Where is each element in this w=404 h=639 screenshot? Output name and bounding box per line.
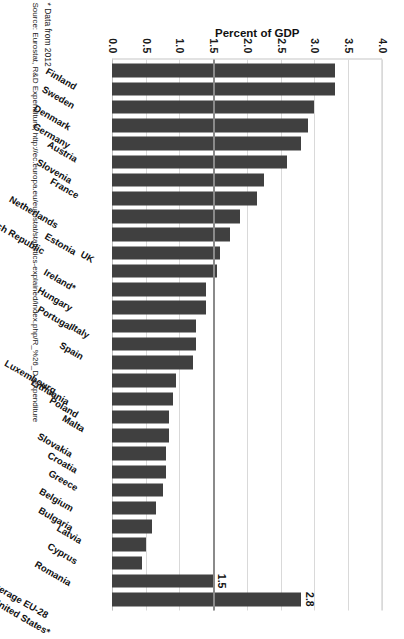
bar[interactable] <box>112 355 193 368</box>
category-label-slot: Estonia <box>2 224 110 242</box>
bar[interactable] <box>112 537 146 550</box>
bar-slot <box>112 298 382 316</box>
bar-slot <box>112 243 382 261</box>
bar[interactable] <box>112 465 166 478</box>
category-label-slot: Finland <box>2 60 110 78</box>
category-label-slot: Slovenia <box>2 151 110 169</box>
bar[interactable] <box>112 373 176 386</box>
category-label-slot: Portugal <box>2 297 110 315</box>
bar-slot <box>112 389 382 407</box>
bar-slot <box>112 152 382 170</box>
value-axis-tick-label: 2.5 <box>276 38 288 53</box>
rotated-figure-stage: Percent of GDP 4.03.53.02.52.01.51.00.50… <box>0 0 404 639</box>
bar-slot <box>112 316 382 334</box>
category-label-slot: Luxembourg <box>2 352 110 370</box>
bar[interactable] <box>112 300 207 313</box>
bar-slot <box>112 444 382 462</box>
bar-slot <box>112 134 382 152</box>
category-label-slot: Greece <box>2 462 110 480</box>
bar[interactable] <box>112 136 301 149</box>
footnote-data-year: * Data from 2012 <box>41 2 54 638</box>
bar-value-label: 1.5 <box>216 573 228 588</box>
category-labels-group: FinlandSwedenDenmarkGermanyAustriaSloven… <box>2 58 110 610</box>
bar[interactable] <box>112 446 166 459</box>
category-label-slot: UK <box>2 243 110 261</box>
bar-slot <box>112 189 382 207</box>
bar[interactable] <box>112 155 288 168</box>
bar-slot <box>112 170 382 188</box>
value-axis-tick-label: 3.0 <box>310 38 322 53</box>
bar[interactable] <box>112 428 169 441</box>
bar-slot <box>112 262 382 280</box>
value-axis-tick-label: 2.0 <box>242 38 254 53</box>
bar-slot <box>112 480 382 498</box>
bar[interactable] <box>112 392 173 405</box>
category-label-slot: Czech Republic <box>2 206 110 224</box>
bar[interactable] <box>112 319 196 332</box>
bar[interactable] <box>112 209 240 222</box>
category-label-slot: Bulgaria <box>2 498 110 516</box>
bar-slot <box>112 426 382 444</box>
value-axis-tick-label: 0.0 <box>107 38 119 53</box>
bar[interactable] <box>112 264 217 277</box>
value-axis-tick-label: 3.5 <box>343 38 355 53</box>
bar[interactable] <box>112 173 264 186</box>
bar-slot <box>112 116 382 134</box>
bar-slot <box>112 535 382 553</box>
eu28-reference-line <box>213 59 215 610</box>
bar[interactable] <box>112 282 207 295</box>
bar-slot <box>112 280 382 298</box>
category-label-slot: France <box>2 170 110 188</box>
bars-group: 1.52.8 <box>112 59 382 610</box>
category-label-slot: Cyprus <box>2 535 110 553</box>
category-label-slot: Italy <box>2 316 110 334</box>
value-axis-title: Percent of GDP <box>215 26 299 38</box>
category-label-slot: Lithuania <box>2 371 110 389</box>
bar[interactable] <box>112 592 301 605</box>
value-axis-tick-label: 1.5 <box>208 38 220 53</box>
bar-slot <box>112 207 382 225</box>
bar[interactable] <box>112 63 335 76</box>
bar-slot <box>112 97 382 115</box>
bar-slot <box>112 553 382 571</box>
bar-slot <box>112 371 382 389</box>
bar[interactable] <box>112 410 169 423</box>
bar[interactable] <box>112 118 308 131</box>
bar[interactable] <box>112 82 335 95</box>
value-axis-tick-label: 4.0 <box>377 38 389 53</box>
bar-slot <box>112 225 382 243</box>
bar[interactable] <box>112 337 196 350</box>
category-label-slot: Hungary <box>2 279 110 297</box>
bar-slot: 1.5 <box>112 572 382 590</box>
bar[interactable] <box>112 556 142 569</box>
value-axis-tick-label: 0.5 <box>141 38 153 53</box>
category-label-slot: Sweden <box>2 78 110 96</box>
bar-slot <box>112 79 382 97</box>
plot-area: 4.03.53.02.52.01.51.00.50.0 1.52.8 <box>112 58 382 610</box>
bar[interactable] <box>112 483 163 496</box>
bar[interactable] <box>112 519 153 532</box>
bar[interactable] <box>112 246 220 259</box>
category-label-slot: Belgium <box>2 480 110 498</box>
category-label-slot: Croatia <box>2 444 110 462</box>
bar-slot <box>112 61 382 79</box>
category-label-slot: Poland <box>2 389 110 407</box>
category-label-slot: Spain <box>2 334 110 352</box>
source-citation: Source: Eurostat, R&D Expenditure, http:… <box>29 2 41 638</box>
bar[interactable] <box>112 501 156 514</box>
bar-value-label: 2.8 <box>304 592 316 607</box>
bar-slot <box>112 407 382 425</box>
bar[interactable] <box>112 191 257 204</box>
bar-slot <box>112 499 382 517</box>
bar[interactable] <box>112 574 213 587</box>
category-label-slot: Austria <box>2 133 110 151</box>
bar-slot <box>112 462 382 480</box>
category-label-slot: Netherlands <box>2 188 110 206</box>
chart-figure: Percent of GDP 4.03.53.02.52.01.51.00.50… <box>0 0 404 639</box>
category-label-slot: Malta <box>2 407 110 425</box>
category-label-slot: Ireland* <box>2 261 110 279</box>
bar-slot <box>112 353 382 371</box>
bar-slot <box>112 517 382 535</box>
category-label-slot: Slovakia <box>2 425 110 443</box>
category-label-slot: Germany <box>2 115 110 133</box>
